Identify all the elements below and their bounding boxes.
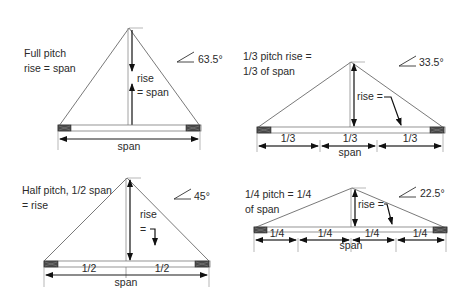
rise-label: rise = (358, 198, 384, 210)
panel-half-pitch: Half pitch, 1/2 span = rise 45° rise = 1… (22, 178, 210, 288)
rise-pointer-arrow (384, 97, 401, 125)
segment-label: 1/4 (413, 227, 428, 239)
support-block-left (257, 127, 271, 133)
segment-label: 1/4 (270, 227, 285, 239)
rise-pointer-arrow (384, 204, 392, 224)
panel-quarter-pitch: 1/4 pitch = 1/4 of span 22.5° rise = 1/4… (245, 187, 447, 252)
segment-label: 1/3 (281, 132, 296, 144)
span-label: span (340, 239, 363, 251)
roof-pitch-diagram: Full pitch rise = span 63.5° rise = span… (0, 0, 468, 299)
tie-beam (58, 125, 201, 131)
caption-line-2: of span (245, 203, 280, 215)
support-block-right (195, 261, 209, 267)
segment-label: 1/3 (403, 132, 418, 144)
angle-label: 45° (194, 190, 210, 202)
panel-full-pitch: Full pitch rise = span 63.5° rise = span… (24, 28, 223, 152)
rafter-left (59, 28, 129, 126)
rise-label: rise = (357, 90, 383, 102)
caption-line-1: Half pitch, 1/2 span (22, 184, 112, 196)
angle-label: 33.5° (419, 56, 444, 68)
angle-icon (177, 52, 194, 62)
angle-icon (399, 187, 416, 197)
rise-label-2: = span (137, 86, 169, 98)
support-block-right (186, 125, 200, 131)
angle-label: 63.5° (198, 53, 223, 65)
angle-icon (174, 189, 191, 199)
rise-label-2: = (140, 223, 146, 235)
segment-label: 1/4 (318, 227, 333, 239)
support-block-left (254, 227, 267, 233)
segment-label: 1/3 (343, 132, 358, 144)
segment-label: 1/2 (155, 262, 170, 274)
angle-icon (399, 56, 416, 66)
caption-line-1: 1/4 pitch = 1/4 (245, 188, 311, 200)
caption-line-1: Full pitch (24, 47, 66, 59)
angle-label: 22.5° (420, 187, 445, 199)
support-block-right (430, 127, 444, 133)
span-label: span (118, 140, 141, 152)
rise-pointer-arrow (150, 229, 155, 245)
caption-line-2: 1/3 of span (243, 65, 295, 77)
support-block-left (44, 261, 58, 267)
support-block-right (433, 227, 447, 233)
span-label: span (115, 276, 138, 288)
support-block-left (58, 125, 71, 131)
segment-label: 1/4 (365, 227, 380, 239)
rise-label-1: rise (140, 208, 157, 220)
caption-line-1: 1/3 pitch rise = (243, 50, 312, 62)
caption-line-2: rise = span (24, 62, 76, 74)
panel-third-pitch: 1/3 pitch rise = 1/3 of span 33.5° rise … (243, 50, 445, 158)
span-label: span (339, 146, 362, 158)
tie-beam (44, 261, 210, 267)
caption-line-2: = rise (22, 199, 48, 211)
rise-label-1: rise (137, 72, 154, 84)
segment-label: 1/2 (82, 262, 97, 274)
